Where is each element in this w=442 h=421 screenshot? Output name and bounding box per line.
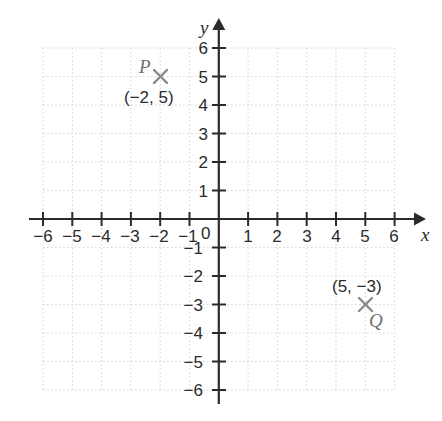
x-tick-label-2: 2: [266, 228, 288, 245]
y-axis-label: y: [200, 18, 208, 37]
y-tick-label--3: −3: [181, 297, 203, 314]
coordinate-plane-figure: −6 −5 −4 −3 −2 −1 1 2 3 4 5 6 6 5 4 3 2 …: [0, 0, 442, 421]
point-label-q: Q: [369, 311, 383, 330]
y-tick-label--1: −1: [181, 240, 203, 257]
y-tick-label-4: 4: [186, 97, 208, 114]
point-coords-q: (5, −3): [332, 278, 382, 295]
x-tick-label--4: −4: [90, 228, 112, 245]
x-axis-label: x: [421, 225, 429, 244]
x-tick-label-4: 4: [325, 228, 347, 245]
point-coords-p: (−2, 5): [124, 89, 174, 106]
y-tick-label-3: 3: [186, 126, 208, 143]
x-tick-label-5: 5: [354, 228, 376, 245]
origin-label: 0: [201, 225, 210, 242]
x-tick-label--3: −3: [119, 228, 141, 245]
y-tick-label-6: 6: [186, 40, 208, 57]
x-tick-label--5: −5: [61, 228, 83, 245]
y-tick-label-5: 5: [186, 69, 208, 86]
x-tick-label-1: 1: [237, 228, 259, 245]
y-tick-label-2: 2: [186, 154, 208, 171]
y-tick-label--2: −2: [181, 268, 203, 285]
y-tick-label--4: −4: [181, 325, 203, 342]
x-axis: [29, 212, 426, 226]
y-tick-label--5: −5: [181, 354, 203, 371]
x-tick-label--6: −6: [32, 228, 54, 245]
y-axis: [212, 18, 226, 404]
plot-canvas: [0, 0, 442, 421]
x-tick-label-3: 3: [296, 228, 318, 245]
x-tick-label-6: 6: [383, 228, 405, 245]
y-tick-label--6: −6: [181, 382, 203, 399]
x-tick-label--2: −2: [148, 228, 170, 245]
y-tick-label-1: 1: [186, 183, 208, 200]
point-label-p: P: [139, 57, 151, 76]
